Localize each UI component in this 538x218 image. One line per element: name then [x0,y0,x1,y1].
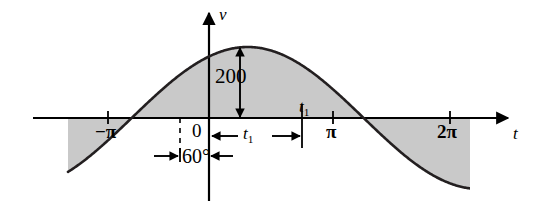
phase-angle-label: 60° [182,146,210,166]
t1-axis-label: t1 [299,98,309,119]
t1-span-label-subscript: 1 [248,133,254,145]
tick-label-2pi: 2π [437,122,457,141]
waveform-figure: v t 200 −π 0 π 2π t1 t1 60° [0,0,538,218]
t1-span-label: t1 [243,125,253,146]
v-axis-label: v [219,6,227,23]
t1-axis-label-subscript: 1 [304,106,310,118]
tick-label-neg-pi: −π [95,122,116,141]
waveform-plot [0,0,538,218]
tick-label-pi: π [326,122,336,141]
amplitude-label: 200 [215,66,247,87]
origin-label: 0 [192,121,202,140]
t-axis-label: t [513,125,518,142]
